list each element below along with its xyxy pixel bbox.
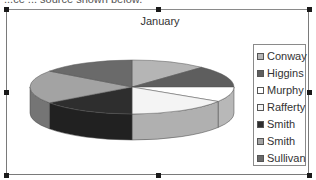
legend-swatch-icon [257,70,264,77]
legend-label: Conway [267,50,307,62]
legend-swatch-icon [257,138,264,145]
legend-label: Smith [267,118,295,130]
legend-label: Sullivan [267,152,306,164]
legend-item: Higgins [257,66,304,80]
legend-item: Smith [257,117,295,131]
legend-swatch-icon [257,104,264,111]
chart-legend: Conway Higgins Murphy Rafferty Smith Smi… [253,44,306,166]
legend-swatch-icon [257,155,264,162]
legend-label: Smith [267,135,295,147]
legend-item: Murphy [257,83,304,97]
legend-item: Conway [257,49,307,63]
legend-item: Smith [257,134,295,148]
legend-item: Sullivan [257,151,306,165]
legend-swatch-icon [257,53,264,60]
legend-label: Higgins [267,67,304,79]
legend-swatch-icon [257,121,264,128]
legend-swatch-icon [257,87,264,94]
legend-label: Murphy [267,84,304,96]
legend-item: Rafferty [257,100,305,114]
legend-label: Rafferty [267,101,305,113]
